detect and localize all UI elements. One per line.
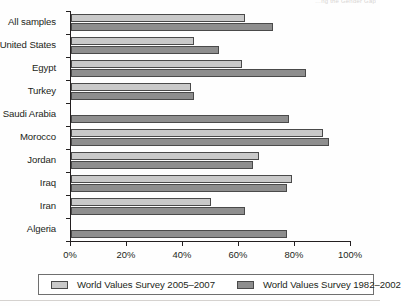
bar bbox=[71, 152, 259, 161]
legend-label: World Values Survey 2005–2007 bbox=[77, 279, 215, 290]
x-tick-label: 0% bbox=[63, 249, 77, 260]
legend-label: World Values Survey 1982–2002 bbox=[263, 279, 401, 290]
y-tick bbox=[66, 80, 70, 81]
dark-gray-swatch bbox=[237, 281, 254, 289]
category-label: Iraq bbox=[40, 177, 56, 188]
bar bbox=[71, 198, 211, 207]
bar bbox=[71, 37, 194, 46]
y-tick bbox=[66, 195, 70, 196]
category-label: Egypt bbox=[32, 62, 56, 73]
bar bbox=[71, 129, 323, 138]
category-label: Iran bbox=[40, 200, 56, 211]
bar bbox=[71, 46, 219, 55]
category-label: Jordan bbox=[27, 154, 56, 165]
bar bbox=[71, 115, 289, 124]
bar bbox=[71, 92, 194, 101]
x-tick-label: 60% bbox=[229, 249, 248, 260]
x-tick bbox=[238, 241, 239, 246]
category-label: Turkey bbox=[28, 85, 56, 96]
x-tick-label: 40% bbox=[173, 249, 192, 260]
bar bbox=[71, 83, 191, 92]
y-tick bbox=[66, 218, 70, 219]
x-tick-label: 20% bbox=[117, 249, 136, 260]
y-tick bbox=[66, 126, 70, 127]
x-tick bbox=[294, 241, 295, 246]
bar bbox=[71, 138, 329, 147]
page-rule bbox=[0, 300, 380, 301]
y-tick bbox=[66, 57, 70, 58]
legend-item-2005-2007: World Values Survey 2005–2007 bbox=[51, 275, 215, 294]
x-tick bbox=[70, 241, 71, 246]
x-tick bbox=[182, 241, 183, 246]
bar bbox=[71, 69, 306, 78]
bar bbox=[71, 230, 287, 239]
y-tick bbox=[66, 103, 70, 104]
legend-item-1982-2002: World Values Survey 1982–2002 bbox=[237, 275, 401, 294]
x-axis-line bbox=[70, 241, 350, 242]
y-tick bbox=[66, 11, 70, 12]
category-label: United States bbox=[0, 39, 56, 50]
y-tick bbox=[66, 149, 70, 150]
x-tick-label: 100% bbox=[338, 249, 362, 260]
bar bbox=[71, 60, 242, 69]
bar bbox=[71, 175, 292, 184]
bar bbox=[71, 161, 253, 170]
bar bbox=[71, 207, 245, 216]
x-tick bbox=[126, 241, 127, 246]
category-label: Morocco bbox=[20, 131, 56, 142]
x-tick-label: 80% bbox=[285, 249, 304, 260]
chart-legend: World Values Survey 2005–2007 World Valu… bbox=[38, 274, 374, 295]
x-tick bbox=[350, 241, 351, 246]
y-tick bbox=[66, 172, 70, 173]
category-label: Saudi Arabia bbox=[3, 108, 56, 119]
light-gray-swatch bbox=[51, 281, 68, 289]
running-head: …ng the Gender Gap bbox=[315, 0, 376, 4]
y-tick bbox=[66, 34, 70, 35]
bar bbox=[71, 184, 287, 193]
category-label: All samples bbox=[8, 16, 56, 27]
category-label: Algeria bbox=[27, 223, 56, 234]
bar bbox=[71, 23, 273, 32]
y-tick bbox=[66, 241, 70, 242]
bar bbox=[71, 14, 245, 23]
plot-area: All samplesUnited StatesEgyptTurkeySaudi… bbox=[70, 11, 370, 241]
